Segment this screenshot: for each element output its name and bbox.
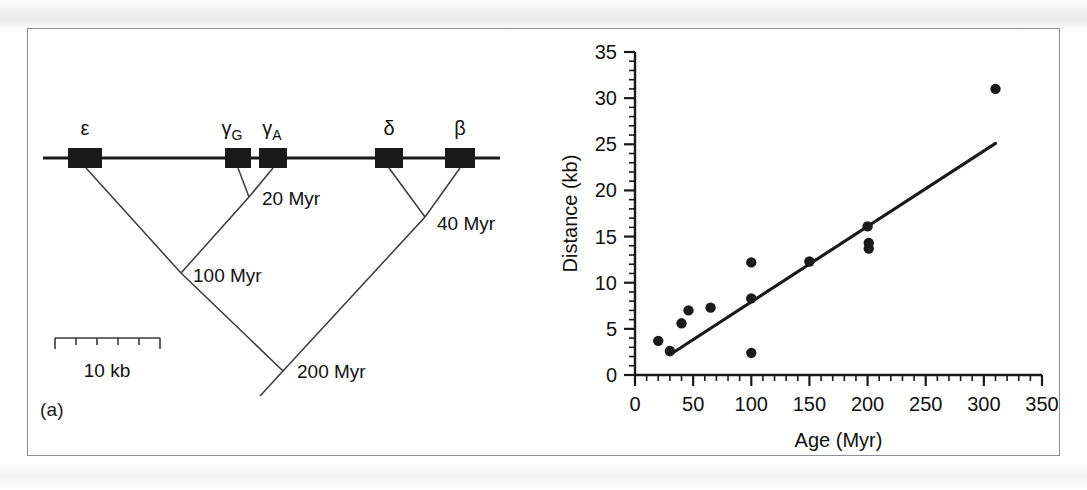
y-tick-label-0: 0: [606, 364, 617, 386]
scale-bar-label: 10 kb: [84, 360, 130, 381]
gene-label-beta: β: [454, 117, 466, 139]
y-tick-label-20: 20: [595, 179, 617, 201]
data-point[interactable]: [746, 257, 756, 267]
data-point[interactable]: [864, 243, 874, 253]
panel-a-drawing: ε γG γA δ β 20 Myr 40 Myr: [0, 0, 545, 490]
gene-box-gamma-G[interactable]: [225, 148, 251, 168]
gene-box-beta[interactable]: [445, 148, 475, 168]
y-tick-label-25: 25: [595, 133, 617, 155]
chart-regression-line: [670, 143, 996, 354]
panel-a: ε γG γA δ β 20 Myr 40 Myr: [0, 0, 545, 490]
y-tick-label-10: 10: [595, 272, 617, 294]
branch-40-to-root: [283, 217, 425, 371]
gene-box-gamma-A[interactable]: [259, 148, 287, 168]
x-tick-label-100: 100: [735, 393, 768, 415]
data-point[interactable]: [705, 302, 715, 312]
chart-y-axis-title: Distance (kb): [559, 155, 581, 273]
branch-gammaG: [238, 168, 249, 197]
divergence-label-20myr: 20 Myr: [262, 188, 321, 209]
scale-bar: 10 kb: [55, 338, 160, 381]
x-tick-label-200: 200: [851, 393, 884, 415]
scatter-chart: 050100150200250300350 05101520253035 Age…: [545, 0, 1087, 490]
x-tick-label-350: 350: [1025, 393, 1058, 415]
gene-label-gamma-G: γG: [222, 117, 243, 143]
data-point[interactable]: [665, 346, 675, 356]
x-tick-label-250: 250: [909, 393, 942, 415]
data-point[interactable]: [862, 221, 872, 231]
data-point[interactable]: [990, 84, 1000, 94]
y-tick-label-35: 35: [595, 41, 617, 63]
chart-tick-marks: [624, 52, 1042, 386]
panel-label-a: (a): [40, 399, 64, 421]
figure-container: ε γG γA δ β 20 Myr 40 Myr: [0, 0, 1087, 490]
chart-data-points: [653, 84, 1001, 358]
data-point[interactable]: [804, 256, 814, 266]
divergence-label-100myr: 100 Myr: [193, 265, 262, 286]
data-point[interactable]: [653, 336, 663, 346]
gene-box-epsilon[interactable]: [68, 148, 102, 168]
branch-delta: [389, 168, 425, 217]
chart-x-axis-title: Age (Myr): [795, 429, 883, 451]
data-point[interactable]: [676, 318, 686, 328]
branch-gamma-to-100: [181, 197, 249, 273]
branch-100-to-root: [181, 273, 283, 371]
gene-label-delta: δ: [383, 117, 394, 139]
chart-axes: [635, 52, 1042, 375]
x-tick-label-0: 0: [629, 393, 640, 415]
y-tick-label-5: 5: [606, 318, 617, 340]
panel-b: 050100150200250300350 05101520253035 Age…: [545, 0, 1087, 490]
chart-x-tick-labels: 050100150200250300350: [629, 393, 1058, 415]
divergence-label-40myr: 40 Myr: [437, 213, 496, 234]
chart-y-tick-labels: 05101520253035: [595, 41, 617, 386]
divergence-label-200myr: 200 Myr: [297, 361, 366, 382]
branch-epsilon: [86, 168, 181, 273]
branch-beta-upper: [425, 168, 460, 217]
gene-box-delta[interactable]: [375, 148, 403, 168]
gene-label-gamma-A: γA: [262, 117, 282, 143]
data-point[interactable]: [746, 348, 756, 358]
x-tick-label-150: 150: [793, 393, 826, 415]
branch-root-stub: [260, 371, 283, 396]
y-tick-label-30: 30: [595, 87, 617, 109]
gene-label-epsilon: ε: [81, 117, 90, 139]
x-tick-label-300: 300: [967, 393, 1000, 415]
data-point[interactable]: [746, 293, 756, 303]
regression-line: [670, 143, 996, 354]
x-tick-label-50: 50: [682, 393, 704, 415]
y-tick-label-15: 15: [595, 226, 617, 248]
data-point[interactable]: [683, 305, 693, 315]
